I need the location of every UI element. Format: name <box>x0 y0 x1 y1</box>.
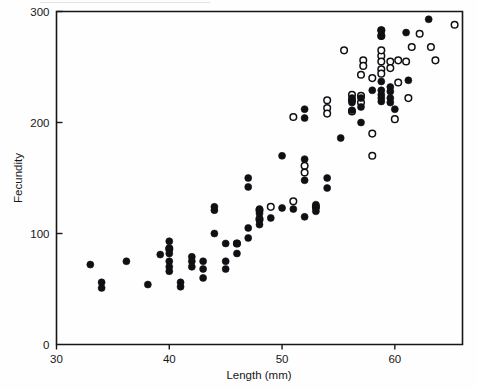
data-point-open <box>341 47 348 54</box>
data-point-filled <box>200 274 207 281</box>
data-point-filled <box>233 240 240 247</box>
y-axis-title: Fecundity <box>12 153 24 203</box>
y-tick-label: 200 <box>30 117 49 129</box>
series-open-circles <box>166 22 458 253</box>
data-point-filled <box>358 103 365 110</box>
data-point-open <box>378 47 385 54</box>
data-point-filled <box>245 224 252 231</box>
data-point-filled <box>425 16 432 23</box>
data-point-open <box>369 75 376 82</box>
data-point-filled <box>245 234 252 241</box>
data-point-filled <box>369 87 376 94</box>
data-point-filled <box>391 106 398 113</box>
data-point-filled <box>233 250 240 257</box>
data-point-filled <box>387 99 394 106</box>
data-point-open <box>405 95 412 102</box>
data-point-filled <box>324 175 331 182</box>
data-point-filled <box>405 77 412 84</box>
data-point-filled <box>256 221 263 228</box>
data-point-filled <box>256 210 263 217</box>
data-point-filled <box>279 152 286 159</box>
x-tick-label: 30 <box>50 353 63 365</box>
data-point-filled <box>358 119 365 126</box>
data-point-filled <box>403 29 410 36</box>
x-tick-label: 50 <box>276 353 289 365</box>
x-axis-title: Length (mm) <box>226 369 291 381</box>
data-point-open <box>324 110 331 117</box>
data-point-filled <box>188 263 195 270</box>
data-point-open <box>408 44 415 51</box>
data-point-open <box>451 22 458 29</box>
data-point-open <box>290 198 297 205</box>
data-point-filled <box>324 184 331 191</box>
data-point-filled <box>166 238 173 245</box>
data-point-open <box>290 114 297 121</box>
data-point-filled <box>87 261 94 268</box>
data-point-open <box>369 153 376 160</box>
y-axis-tick-labels: 0100200300 <box>30 6 49 351</box>
data-point-filled <box>166 250 173 257</box>
y-tick-label: 300 <box>30 6 49 18</box>
data-point-open <box>392 116 399 123</box>
data-point-filled <box>267 214 274 221</box>
data-point-open <box>301 169 308 176</box>
data-point-filled <box>279 204 286 211</box>
data-point-filled <box>301 213 308 220</box>
data-point-filled <box>177 283 184 290</box>
data-point-open <box>403 58 410 65</box>
data-point-filled <box>301 106 308 113</box>
data-point-filled <box>378 32 385 39</box>
data-point-open <box>428 44 435 51</box>
x-axis-tick-labels: 30405060 <box>50 353 401 365</box>
data-point-filled <box>312 208 319 215</box>
y-axis-ticks <box>57 12 63 234</box>
data-point-filled <box>337 135 344 142</box>
data-point-filled <box>98 284 105 291</box>
scatter-plot: 30405060 0100200300 Length (mm) Fecundit… <box>0 0 477 389</box>
x-tick-label: 60 <box>388 353 401 365</box>
data-point-filled <box>157 251 164 258</box>
data-point-open <box>378 70 385 77</box>
figure-container: 30405060 0100200300 Length (mm) Fecundit… <box>0 0 477 389</box>
data-point-open <box>267 204 274 211</box>
data-point-filled <box>200 266 207 273</box>
y-tick-label: 100 <box>30 228 49 240</box>
data-point-open <box>360 63 367 70</box>
data-point-filled <box>123 258 130 265</box>
data-point-filled <box>222 240 229 247</box>
data-point-filled <box>301 156 308 163</box>
x-tick-label: 40 <box>163 353 176 365</box>
data-point-filled <box>387 88 394 95</box>
data-point-filled <box>144 281 151 288</box>
data-point-filled <box>378 98 385 105</box>
data-point-filled <box>301 115 308 122</box>
data-point-filled <box>222 266 229 273</box>
data-point-open <box>387 58 394 65</box>
data-point-open <box>395 57 402 64</box>
data-point-filled <box>245 175 252 182</box>
data-point-open <box>369 130 376 137</box>
data-point-open <box>387 65 394 72</box>
data-point-open <box>324 97 331 104</box>
data-point-open <box>358 71 365 78</box>
data-point-open <box>416 30 423 37</box>
data-point-filled <box>211 230 218 237</box>
data-point-filled <box>301 177 308 184</box>
data-point-filled <box>378 78 385 85</box>
data-point-filled <box>166 268 173 275</box>
data-point-filled <box>211 207 218 214</box>
data-point-filled <box>222 258 229 265</box>
data-point-open <box>395 79 402 86</box>
data-point-open <box>301 162 308 169</box>
data-point-filled <box>348 107 355 114</box>
data-point-open <box>378 58 385 65</box>
data-point-filled <box>290 206 297 213</box>
data-point-filled <box>348 99 355 106</box>
data-point-filled <box>200 258 207 265</box>
y-tick-label: 0 <box>43 339 49 351</box>
data-point-open <box>432 57 439 64</box>
data-point-filled <box>358 95 365 102</box>
data-point-filled <box>245 183 252 190</box>
